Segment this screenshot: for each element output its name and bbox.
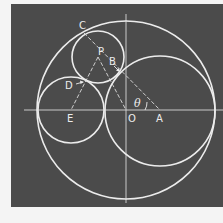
line-P-E (71, 57, 98, 110)
line-C-A (84, 33, 160, 110)
label-theta: θ (134, 97, 141, 110)
theta-arc (145, 102, 147, 110)
label-A: A (156, 113, 163, 124)
label-B: B (109, 56, 116, 67)
label-P: P (98, 46, 104, 57)
circle-A (105, 56, 215, 166)
arrow-D-head (80, 81, 84, 85)
label-E: E (67, 113, 73, 124)
geometry-diagram: C P B D E O A θ (0, 0, 223, 223)
label-O: O (128, 113, 136, 124)
label-D: D (65, 80, 73, 91)
label-C: C (79, 20, 86, 31)
